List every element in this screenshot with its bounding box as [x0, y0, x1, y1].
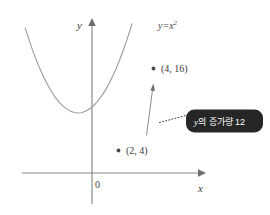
curve-label-exponent: 2: [174, 19, 178, 26]
curve-label-base: y=x: [157, 20, 174, 31]
point-label-2-4: (2, 4): [126, 145, 148, 157]
callout-connector-dotted-line: [160, 116, 187, 123]
x-axis-label: x: [197, 182, 203, 194]
callout-text: 의 증가량 12: [198, 116, 245, 127]
point-marker-4-16: [152, 67, 156, 71]
increment-arrow-head: [150, 83, 155, 91]
origin-label: 0: [95, 179, 100, 190]
y-axis-label: y: [76, 19, 82, 31]
point-marker-2-4: [117, 149, 121, 153]
y-axis-arrowhead: [88, 18, 96, 26]
parabola-curve: [25, 24, 132, 113]
quadratic-function-graph: (4, 16) (2, 4) y의 증가량 12 y=x2 y x 0: [0, 0, 270, 215]
curve-label: y=x2: [157, 19, 178, 31]
callout-label: y의 증가량 12: [193, 116, 245, 127]
x-axis-arrowhead: [198, 169, 206, 177]
point-label-4-16: (4, 16): [161, 63, 188, 75]
increment-arrow-line: [147, 90, 153, 136]
